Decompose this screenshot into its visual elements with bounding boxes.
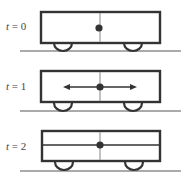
cart-diagram <box>0 120 193 185</box>
panel-t0: t = 0 <box>0 0 193 60</box>
left-wheel-icon <box>54 103 72 111</box>
center-dot-icon <box>96 141 103 148</box>
panel-t1: t = 1 <box>0 60 193 120</box>
cart-diagram <box>0 0 193 60</box>
cart-diagram <box>0 60 193 120</box>
left-wheel-icon <box>55 162 73 170</box>
right-wheel-icon <box>125 162 143 170</box>
center-dot-icon <box>95 24 102 31</box>
panel-t2: t = 2 <box>0 120 193 180</box>
center-dot-icon <box>96 83 103 90</box>
right-wheel-icon <box>124 103 142 111</box>
